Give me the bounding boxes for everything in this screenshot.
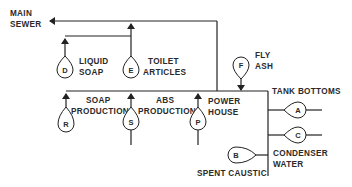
- soap-production-label-2: PRODUCTION: [71, 107, 129, 116]
- condenser-water-label-2: WATER: [273, 160, 303, 169]
- svg-text:D: D: [62, 66, 68, 75]
- main-sewer-label-2: SEWER: [10, 20, 42, 29]
- e-branch: [65, 24, 131, 60]
- svg-text:A: A: [295, 106, 301, 115]
- svg-text:E: E: [128, 66, 133, 75]
- svg-text:P: P: [195, 118, 200, 127]
- source-f: F: [233, 57, 249, 90]
- svg-text:R: R: [63, 120, 69, 129]
- fly-ash-label-1: FLY: [255, 51, 271, 60]
- power-house-label-1: POWER: [208, 97, 240, 106]
- soap-production-label-1: SOAP: [86, 96, 111, 105]
- svg-text:C: C: [295, 131, 301, 140]
- toilet-articles-label-1: TOILET: [148, 57, 179, 66]
- svg-text:F: F: [239, 61, 244, 70]
- abs-production-label-2: PRODUCTION: [138, 107, 196, 116]
- source-e: E: [123, 56, 139, 78]
- liquid-soap-label-2: SOAP: [79, 68, 104, 77]
- source-c: C: [268, 127, 322, 143]
- spent-caustic-label: SPENT CAUSTIC: [197, 169, 267, 178]
- source-a: A: [268, 102, 322, 118]
- fly-ash-label-2: ASH: [255, 62, 273, 71]
- flow-diagram: MAIN SEWER D LIQUID SOAP E TOILET ARTICL…: [0, 0, 352, 187]
- main-sewer-label-1: MAIN: [10, 9, 32, 18]
- svg-text:S: S: [128, 118, 133, 127]
- svg-text:B: B: [233, 151, 239, 160]
- source-d: D: [57, 56, 73, 78]
- condenser-water-label-1: CONDENSER: [273, 149, 328, 158]
- source-b: B: [228, 147, 268, 163]
- abs-production-label-1: ABS: [156, 96, 174, 105]
- source-s: S: [123, 94, 139, 145]
- liquid-soap-label-1: LIQUID: [79, 57, 109, 66]
- tank-bottoms-label: TANK BOTTOMS: [272, 87, 341, 96]
- main-sewer-line: [50, 21, 217, 91]
- source-p: P: [190, 94, 206, 145]
- power-house-label-2: HOUSE: [208, 108, 239, 117]
- toilet-articles-label-2: ARTICLES: [143, 68, 187, 77]
